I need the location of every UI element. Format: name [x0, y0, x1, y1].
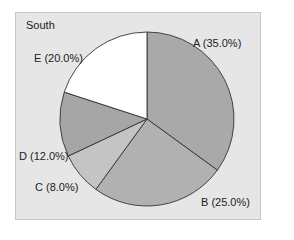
slice-label-c: C (8.0%): [35, 181, 78, 193]
slice-label-d: D (12.0%): [19, 150, 69, 162]
slice-label-a: A (35.0%): [193, 37, 241, 49]
slice-label-e: E (20.0%): [34, 52, 83, 64]
slice-label-b: B (25.0%): [201, 196, 250, 208]
pie-slices: [60, 32, 234, 206]
